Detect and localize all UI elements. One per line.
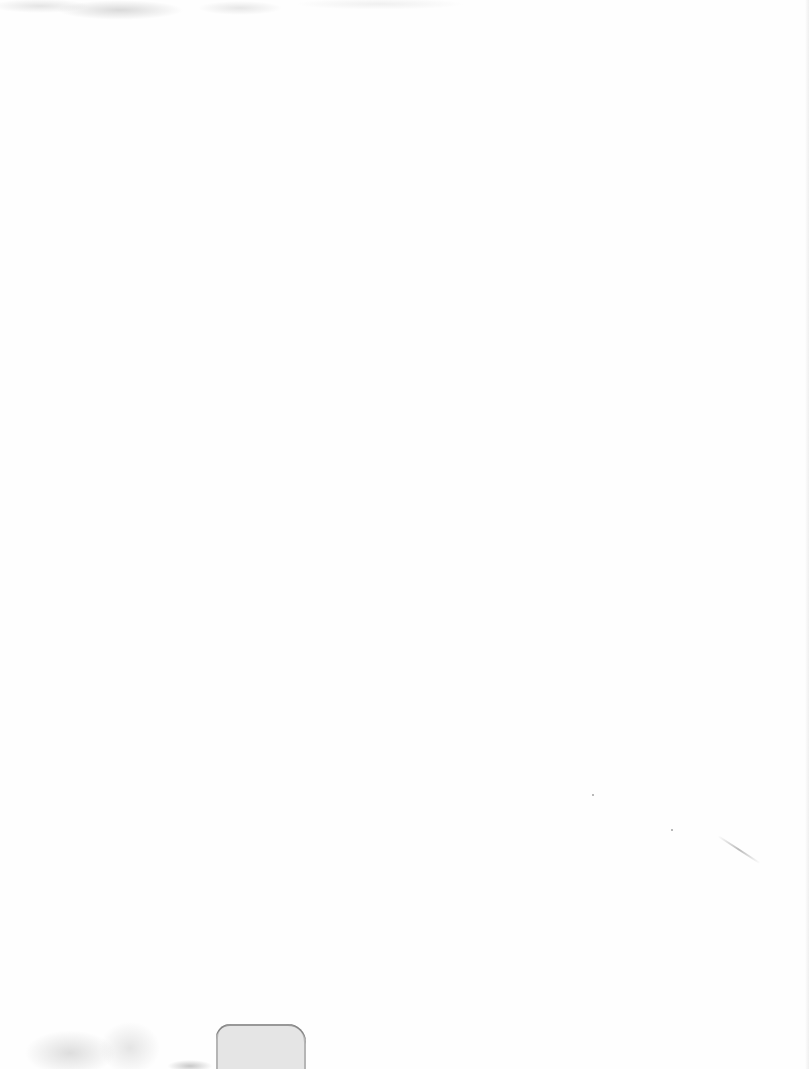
paper-stain-bottom-middle <box>160 1056 220 1069</box>
paper-stain-bottom-left <box>20 1018 170 1069</box>
paper-edge-shadow <box>805 0 809 1069</box>
blank-scanned-page <box>0 0 809 1069</box>
paper-stain-bottom-right <box>216 1024 306 1069</box>
paper-speck <box>592 794 594 796</box>
paper-speck <box>671 829 673 831</box>
paper-scratch-mark <box>717 835 760 864</box>
paper-stain-top <box>0 0 480 34</box>
